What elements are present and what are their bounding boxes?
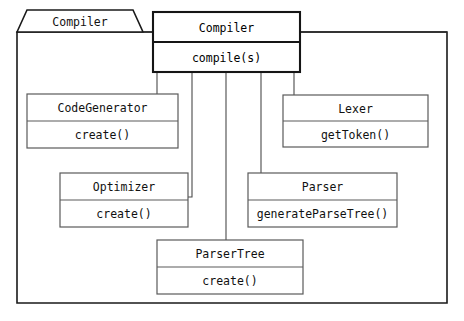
class-box-parser-tree[interactable]: ParserTreecreate() xyxy=(157,240,303,294)
class-name-code-generator: CodeGenerator xyxy=(57,101,147,115)
class-operation-parser-tree: create() xyxy=(202,274,257,288)
class-name-compiler: Compiler xyxy=(199,21,254,35)
class-operation-code-generator: create() xyxy=(75,128,130,142)
class-box-parser[interactable]: ParsergenerateParseTree() xyxy=(248,173,397,227)
class-box-lexer[interactable]: LexergetToken() xyxy=(283,95,428,147)
diagram-svg: Compiler Compilercompile(s)CodeGenerator… xyxy=(0,0,464,321)
class-operation-compiler: compile(s) xyxy=(192,51,261,65)
class-name-lexer: Lexer xyxy=(338,102,373,116)
class-operation-parser: generateParseTree() xyxy=(257,207,389,221)
class-name-parser-tree: ParserTree xyxy=(195,247,264,261)
class-name-optimizer: Optimizer xyxy=(93,180,155,194)
class-operation-lexer: getToken() xyxy=(321,128,390,142)
class-box-compiler[interactable]: Compilercompile(s) xyxy=(153,12,300,72)
package-name-label: Compiler xyxy=(52,15,107,29)
class-box-code-generator[interactable]: CodeGeneratorcreate() xyxy=(27,94,178,148)
class-box-optimizer[interactable]: Optimizercreate() xyxy=(60,173,188,227)
class-name-parser: Parser xyxy=(302,180,344,194)
class-operation-optimizer: create() xyxy=(96,207,151,221)
uml-class-diagram-canvas: Compiler Compilercompile(s)CodeGenerator… xyxy=(0,0,464,321)
